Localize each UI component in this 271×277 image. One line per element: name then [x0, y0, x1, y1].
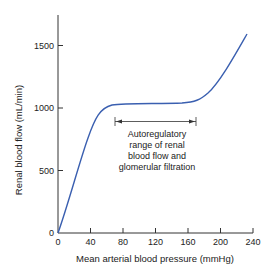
y-tick-label: 1500 [34, 41, 54, 51]
annotation-line: Autoregulatory [128, 129, 187, 139]
y-tick-label: 1000 [34, 103, 54, 113]
y-tick-label: 500 [39, 166, 54, 176]
x-tick-label: 80 [118, 237, 128, 247]
annotation-line: glomerular filtration [119, 162, 196, 172]
x-tick-label: 120 [148, 237, 163, 247]
y-tick-label: 0 [49, 228, 54, 238]
x-tick-label: 0 [55, 237, 60, 247]
x-tick-label: 240 [245, 237, 260, 247]
annotation-line: blood flow and [128, 151, 186, 161]
y-axis-label: Renal blood flow (mL/min) [13, 85, 24, 195]
chart: 0 500 1000 1500 0 40 80 120 160 200 240 … [0, 0, 271, 277]
x-tick-label: 160 [180, 237, 195, 247]
x-tick-label: 40 [85, 237, 95, 247]
arrowhead-left-icon [116, 120, 122, 124]
arrowhead-right-icon [189, 120, 195, 124]
x-axis-label: Mean arterial blood pressure (mmHg) [76, 253, 234, 264]
x-tick-label: 200 [213, 237, 228, 247]
annotation-line: range of renal [129, 140, 185, 150]
